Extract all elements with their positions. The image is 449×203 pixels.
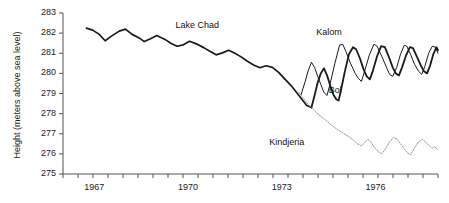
series-annotation-kindjeria: Kindjeria <box>269 137 304 147</box>
x-tick-label: 1973 <box>257 182 307 192</box>
chart-plot-area <box>0 0 449 203</box>
y-tick-label: 283 <box>23 7 56 17</box>
x-tick-label: 1967 <box>69 182 119 192</box>
series-line-bol <box>311 46 438 107</box>
series-line-kindjeria <box>299 92 437 154</box>
series-annotation-kalom: Kalom <box>316 27 342 37</box>
series-line-kalom <box>301 44 438 95</box>
y-tick-label: 275 <box>23 168 56 178</box>
x-tick-label: 1976 <box>351 182 401 192</box>
series-line-lake-chad <box>86 28 311 108</box>
series-annotation-bol: Bol <box>329 85 342 95</box>
y-tick-label: 277 <box>23 128 56 138</box>
y-tick-label: 276 <box>23 148 56 158</box>
y-tick-label: 281 <box>23 47 56 57</box>
series-annotation-lake-chad: Lake Chad <box>176 20 220 30</box>
y-tick-label: 282 <box>23 27 56 37</box>
x-tick-label: 1970 <box>163 182 213 192</box>
y-tick-label: 278 <box>23 108 56 118</box>
y-tick-label: 280 <box>23 67 56 77</box>
y-tick-label: 279 <box>23 88 56 98</box>
chart-container: Height (meters above sea level) 28328228… <box>0 0 449 203</box>
